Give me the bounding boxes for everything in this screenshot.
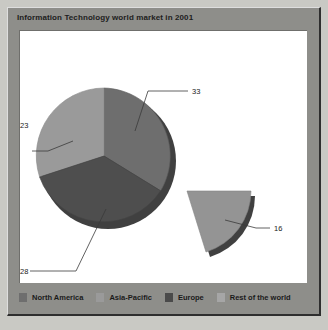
chart-legend: North America Asia-Pacific Europe Rest o…: [19, 286, 307, 308]
data-label-rest-of-the-world: 16: [274, 224, 282, 233]
legend-item-europe: Europe: [165, 293, 204, 302]
legend-label-rest-of-the-world: Rest of the world: [230, 293, 291, 302]
data-label-north-america: 33: [192, 87, 200, 96]
legend-label-asia-pacific: Asia-Pacific: [109, 293, 152, 302]
legend-label-north-america: North America: [32, 293, 83, 302]
legend-swatch-europe: [165, 293, 173, 302]
chart-window-frame: Information Technology world market in 2…: [7, 7, 321, 316]
pie-slice-rest-of-the-world: [187, 191, 251, 252]
legend-label-europe: Europe: [178, 293, 204, 302]
legend-swatch-rest-of-the-world: [217, 293, 225, 302]
data-label-asia-pacific: 23: [20, 121, 28, 130]
legend-swatch-north-america: [19, 293, 27, 302]
data-label-europe: 28: [20, 267, 28, 276]
window-titlebar: Information Technology world market in 2…: [8, 8, 319, 30]
pie-chart-svg: 33 23 28 16: [20, 31, 307, 283]
chart-plot-area: 33 23 28 16: [19, 30, 307, 283]
legend-item-north-america: North America: [19, 293, 83, 302]
legend-item-asia-pacific: Asia-Pacific: [96, 293, 152, 302]
chart-title: Information Technology world market in 2…: [17, 13, 319, 22]
legend-swatch-asia-pacific: [96, 293, 104, 302]
legend-item-rest-of-the-world: Rest of the world: [217, 293, 291, 302]
